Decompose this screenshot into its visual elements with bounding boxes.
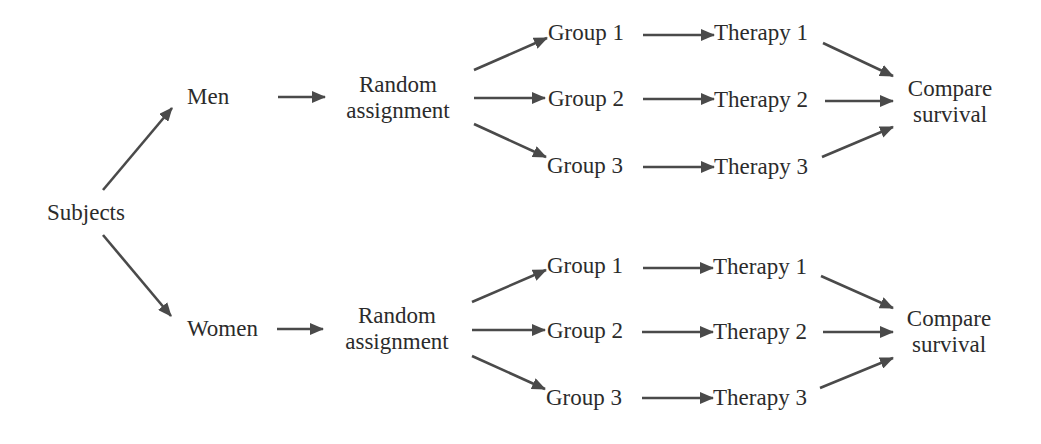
arrow-random-to-group3 xyxy=(472,356,545,389)
arrow-subjects-to-men xyxy=(103,108,172,190)
women-group-1: Group 1 xyxy=(547,253,623,279)
random-assignment-women: Random assignment xyxy=(345,303,449,355)
subjects-node: Subjects xyxy=(47,200,125,226)
compare-line1: Compare xyxy=(908,76,992,102)
women-therapy-1: Therapy 1 xyxy=(713,254,807,280)
men-group-1: Group 1 xyxy=(548,20,624,46)
men-therapy-1: Therapy 1 xyxy=(714,20,808,46)
men-group-3: Group 3 xyxy=(547,153,623,179)
random-assignment-line1: Random xyxy=(346,72,450,98)
arrow-therapy3-to-compare xyxy=(820,358,893,388)
stratified-randomization-diagram: Subjects Men Random assignment Group 1 G… xyxy=(0,0,1041,444)
women-therapy-2: Therapy 2 xyxy=(713,319,807,345)
random-assignment-line1: Random xyxy=(345,303,449,329)
arrow-random-to-group1 xyxy=(474,38,547,70)
arrow-therapy3-to-compare xyxy=(822,127,893,157)
men-group-2: Group 2 xyxy=(548,86,624,112)
random-assignment-line2: assignment xyxy=(345,329,449,355)
arrow-therapy1-to-compare xyxy=(823,43,893,76)
men-therapy-3: Therapy 3 xyxy=(714,154,808,180)
women-therapy-3: Therapy 3 xyxy=(713,385,807,411)
arrow-random-to-group1 xyxy=(472,270,546,302)
compare-line2: survival xyxy=(908,102,992,128)
men-therapy-2: Therapy 2 xyxy=(714,87,808,113)
stratum-men: Men xyxy=(187,84,229,110)
women-group-3: Group 3 xyxy=(546,385,622,411)
arrow-therapy1-to-compare xyxy=(821,276,893,308)
compare-line1: Compare xyxy=(907,306,991,332)
women-group-2: Group 2 xyxy=(547,318,623,344)
compare-survival-women: Compare survival xyxy=(907,306,991,358)
random-assignment-men: Random assignment xyxy=(346,72,450,124)
arrows-layer xyxy=(0,0,1041,444)
arrow-subjects-to-women xyxy=(103,235,171,316)
stratum-women: Women xyxy=(187,316,258,342)
random-assignment-line2: assignment xyxy=(346,98,450,124)
arrow-random-to-group3 xyxy=(474,124,546,157)
compare-line2: survival xyxy=(907,332,991,358)
compare-survival-men: Compare survival xyxy=(908,76,992,128)
